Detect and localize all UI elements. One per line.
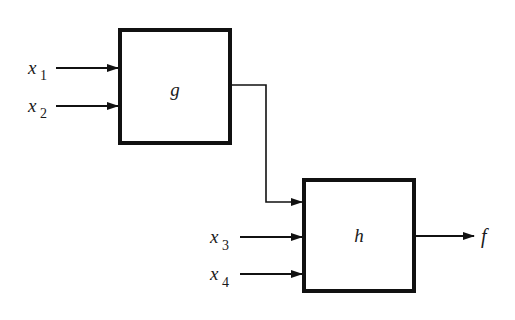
input-x4-label: x [209,263,219,284]
input-x1: x 1 [27,57,118,83]
input-x2-subscript: 2 [40,106,47,121]
input-x3-label: x [209,226,219,247]
block-diagram: g h x 1 x 2 x 3 x 4 f [0,0,515,320]
block-h: h [304,180,414,291]
connector-g-to-h [232,85,302,202]
block-g-label: g [170,79,180,100]
input-x4-subscript: 4 [222,275,229,290]
input-x1-subscript: 1 [40,68,47,83]
block-g: g [120,30,230,143]
output-f-label: f [481,225,489,248]
output-f: f [416,225,489,248]
input-x2-label: x [27,95,37,116]
input-x2: x 2 [27,95,118,121]
input-x1-label: x [27,57,37,78]
input-x4: x 4 [209,263,302,290]
input-x3-subscript: 3 [222,238,229,253]
block-h-label: h [354,225,364,246]
input-x3: x 3 [209,226,302,253]
